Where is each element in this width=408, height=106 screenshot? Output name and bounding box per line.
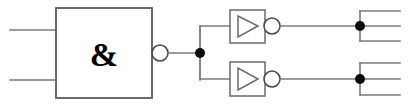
circuit-canvas: & bbox=[0, 0, 408, 106]
fanout-junction-dot bbox=[195, 48, 205, 58]
inverter-top-bubble bbox=[264, 18, 280, 34]
output-top-junction-dot bbox=[355, 21, 365, 31]
inverter-bottom-bubble bbox=[264, 71, 280, 87]
and-gate-output-bubble bbox=[152, 45, 168, 61]
output-bottom-junction-dot bbox=[355, 74, 365, 84]
logic-circuit-diagram: & bbox=[0, 0, 408, 106]
and-gate-symbol: & bbox=[90, 36, 118, 73]
